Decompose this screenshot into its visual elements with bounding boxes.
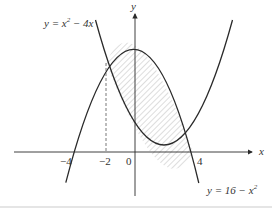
tick-label-neg4: −4: [60, 155, 72, 167]
curve-label-x-squared-minus-4x: y = x2 − 4x: [43, 16, 94, 29]
shaded-region: [106, 43, 193, 169]
curve-label-16-minus-x-squared: y = 16 − x2: [206, 183, 258, 196]
y-axis-label: y: [130, 0, 136, 12]
graph-canvas: y x −4 −2 0 4 y = x2 − 4x y = 16 − x2: [0, 0, 272, 209]
tick-label-zero: 0: [126, 155, 132, 167]
tick-label-four: 4: [197, 155, 203, 167]
x-axis-label: x: [258, 145, 264, 157]
tick-label-neg2: −2: [99, 155, 111, 167]
